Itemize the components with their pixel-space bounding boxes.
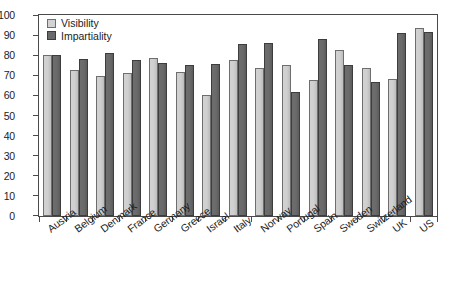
x-axis-tick-mark [39, 217, 40, 222]
bar-group [410, 15, 437, 216]
y-axis-tick-label: 0 [0, 211, 15, 222]
bar-group [331, 15, 358, 216]
bar-group [357, 15, 384, 216]
bar-impartiality-us [424, 32, 433, 216]
bar-impartiality-sweden [344, 65, 353, 215]
x-axis-label-uk: UK [390, 216, 409, 234]
y-axis-tick-mark [33, 75, 38, 76]
bar-group [304, 15, 331, 216]
bar-group [172, 15, 199, 216]
y-axis-tick-label: 30 [0, 150, 15, 161]
y-axis-tick-label: 20 [0, 170, 15, 181]
bar-group [198, 15, 225, 216]
bar-group [251, 15, 278, 216]
bar-group [278, 15, 305, 216]
y-axis-tick-mark [33, 175, 38, 176]
bar-visibility-france [123, 73, 132, 215]
y-axis-tick-mark [33, 55, 38, 56]
bar-impartiality-germany [158, 63, 167, 215]
bar-group [39, 15, 66, 216]
y-axis-tick-mark [33, 155, 38, 156]
bar-impartiality-france [132, 60, 141, 215]
legend-swatch-visibility [47, 19, 56, 28]
y-axis-tick-label: 80 [0, 50, 15, 61]
bars-layer [39, 15, 437, 216]
bar-chart: VisibilityImpartiality 01020304050607080… [0, 0, 457, 282]
y-axis-tick-label: 60 [0, 90, 15, 101]
y-axis-tick-label: 40 [0, 130, 15, 141]
bar-group [119, 15, 146, 216]
bar-impartiality-norway [264, 43, 273, 216]
bar-visibility-sweden [335, 50, 344, 215]
bar-visibility-switzerland [362, 68, 371, 215]
bar-visibility-greece [176, 72, 185, 215]
bar-impartiality-uk [397, 33, 406, 216]
legend-item-impartiality: Impartiality [47, 31, 112, 42]
bar-impartiality-belgium [79, 59, 88, 215]
bar-visibility-us [415, 28, 424, 216]
bar-visibility-israel [202, 95, 211, 215]
bar-impartiality-greece [185, 65, 194, 215]
bar-visibility-italy [229, 60, 238, 215]
bar-impartiality-austria [52, 55, 61, 215]
y-axis-tick-mark [33, 195, 38, 196]
x-axis-tick-mark [437, 217, 438, 222]
bar-visibility-belgium [70, 70, 79, 215]
bar-impartiality-israel [211, 64, 220, 215]
legend-label-impartiality: Impartiality [61, 31, 112, 42]
y-axis-tick-label: 90 [0, 30, 15, 41]
bar-visibility-norway [255, 68, 264, 215]
bar-impartiality-portugal [291, 92, 300, 215]
chart-legend: VisibilityImpartiality [47, 18, 112, 41]
bar-impartiality-switzerland [371, 82, 380, 215]
bar-group [384, 15, 411, 216]
y-axis-tick-mark [33, 15, 38, 16]
y-axis-tick-mark [33, 95, 38, 96]
bar-group [145, 15, 172, 216]
bar-impartiality-italy [238, 44, 247, 216]
y-axis-tick-mark [33, 115, 38, 116]
y-axis-tick-label: 50 [0, 110, 15, 121]
y-axis-tick-mark [33, 215, 38, 216]
y-axis-tick-mark [33, 35, 38, 36]
y-axis-tick-label: 10 [0, 190, 15, 201]
bar-visibility-portugal [282, 65, 291, 215]
legend-label-visibility: Visibility [61, 18, 99, 29]
x-axis-tick-mark [410, 217, 411, 222]
bar-visibility-denmark [96, 76, 105, 215]
x-axis-label-us: US [417, 216, 436, 234]
y-axis-tick-label: 100 [0, 10, 15, 21]
legend-item-visibility: Visibility [47, 18, 112, 29]
legend-swatch-impartiality [47, 31, 56, 40]
bar-visibility-spain [309, 80, 318, 215]
bar-impartiality-denmark [105, 53, 114, 215]
bar-visibility-austria [43, 55, 52, 215]
bar-group [66, 15, 93, 216]
y-axis-tick-label: 70 [0, 70, 15, 81]
bar-visibility-uk [388, 79, 397, 215]
bar-visibility-germany [149, 58, 158, 215]
bar-group [92, 15, 119, 216]
bar-group [225, 15, 252, 216]
y-axis-tick-mark [33, 135, 38, 136]
bar-impartiality-spain [318, 39, 327, 216]
